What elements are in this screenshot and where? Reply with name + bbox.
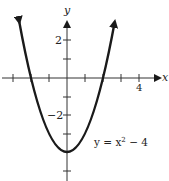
equation-label: y = x2 − 4 [93,136,148,148]
y-tick-label-neg2: −2 [47,109,63,122]
x-tick-label-4: 4 [136,82,142,93]
equation-main: y = x [93,136,121,148]
equation-tail: − 4 [126,136,148,148]
parabola-graph: y x 2 −2 4 y = x2 − 4 [0,0,169,181]
x-axis-label: x [162,71,169,84]
y-axis-label: y [63,4,71,17]
y-tick-label-2: 2 [55,34,62,47]
